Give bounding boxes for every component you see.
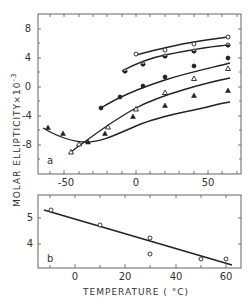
markers-panel-b	[49, 208, 228, 261]
markers-filled-triangles	[46, 88, 231, 144]
a-y-tick-4: 4	[25, 52, 31, 63]
b-x-tick-0: 0	[72, 271, 78, 282]
figure: 8 4 0 -4 -8 -50 0 50 a 5 4 0 20	[0, 0, 252, 303]
b-x-tick-20: 20	[119, 271, 132, 282]
y-scale-base: ×10	[12, 81, 22, 103]
a-y-tick-8: 8	[25, 23, 31, 34]
a-x-tick-50: 50	[202, 177, 215, 188]
a-y-tick-0: 0	[25, 81, 31, 92]
curve-filled-circles	[101, 63, 230, 108]
b-x-tick-40: 40	[170, 271, 183, 282]
y-axis-title: MOLAR ELLIPTICITY	[12, 103, 22, 207]
panel-a	[38, 14, 241, 174]
markers-open-triangles	[69, 66, 231, 154]
panel-b	[38, 195, 241, 268]
y-axis-scale-text: ×10-3	[10, 73, 22, 104]
y-scale-exp: -3	[10, 73, 18, 82]
a-y-tick-neg8: -8	[22, 139, 32, 150]
panel-a-frame	[38, 14, 241, 174]
panel-a-letter: a	[47, 155, 53, 166]
panel-a-bottom-ticks	[50, 170, 237, 174]
y-axis-scale: ×10-3	[10, 73, 22, 104]
a-x-tick-0: 0	[133, 177, 139, 188]
a-x-tick-neg50: -50	[58, 177, 74, 188]
b-y-tick-4: 4	[27, 238, 33, 249]
a-y-tick-neg4: -4	[22, 110, 32, 121]
b-x-tick-60: 60	[220, 271, 233, 282]
panel-b-letter: b	[47, 253, 53, 264]
fit-line	[44, 210, 232, 265]
markers-half-circles	[123, 43, 230, 73]
x-axis-title: TEMPERATURE ( °C)	[82, 287, 189, 297]
y-axis-title-main: MOLAR ELLIPTICITY	[12, 103, 22, 207]
panel-b-frame	[38, 195, 241, 268]
panel-b-ticks	[38, 195, 241, 268]
b-y-tick-5: 5	[27, 212, 33, 223]
